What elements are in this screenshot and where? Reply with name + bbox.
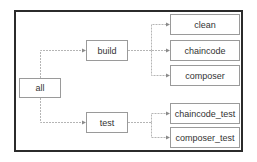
node-clean: clean: [170, 14, 240, 35]
node-chaincode: chaincode: [170, 40, 240, 61]
edge-test-composer-test: [152, 123, 169, 138]
node-build: build: [86, 40, 128, 61]
edge-build-composer: [152, 51, 169, 76]
node-chaincode-test: chaincode_test: [170, 103, 240, 124]
edge-all-build: [41, 51, 85, 79]
edge-test-chaincode-test: [152, 114, 169, 123]
edge-all-test: [41, 98, 85, 123]
node-composer: composer: [170, 65, 240, 86]
edge-build-clean: [152, 25, 169, 51]
node-composer-test: composer_test: [170, 127, 240, 148]
node-test: test: [86, 112, 128, 133]
node-all: all: [19, 78, 61, 98]
